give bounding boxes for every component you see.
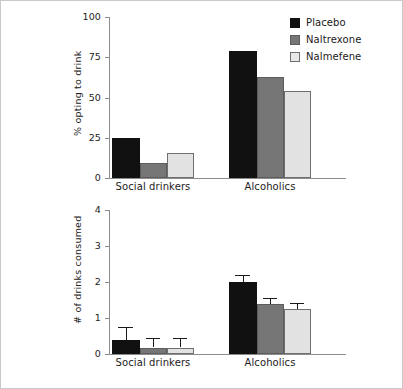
legend-label-placebo: Placebo xyxy=(306,17,346,28)
legend: Placebo Naltrexone Nalmefene xyxy=(290,14,361,65)
y-tick-top-0 xyxy=(105,178,109,179)
errorbar-cap-bottom-alcoholics-nalmefene xyxy=(290,303,304,304)
bar-top-alcoholics-naltrexone xyxy=(257,77,284,178)
legend-item-placebo: Placebo xyxy=(290,14,361,31)
y-tick-bottom-1 xyxy=(105,318,109,319)
legend-swatch-placebo-icon xyxy=(290,18,300,28)
bar-bottom-social-placebo xyxy=(112,340,140,354)
bar-bottom-alcoholics-nalmefene xyxy=(284,309,311,354)
x-axis-line-bottom xyxy=(109,354,346,355)
figure-frame: % opting to drink 100 75 50 25 0 Social … xyxy=(0,0,403,389)
y-tick-label-top-0: 0 xyxy=(75,173,101,183)
errorbar-cap-bottom-alcoholics-placebo xyxy=(235,275,250,276)
y-axis-line-top xyxy=(109,17,110,179)
y-tick-bottom-2 xyxy=(105,282,109,283)
bar-top-alcoholics-placebo xyxy=(229,51,257,178)
bar-top-social-placebo xyxy=(112,138,140,178)
y-axis-label-bottom: # of drinks consumed xyxy=(72,216,83,324)
y-tick-label-top-50: 50 xyxy=(75,93,101,103)
y-tick-label-bottom-3: 3 xyxy=(75,241,101,251)
y-tick-bottom-4 xyxy=(105,210,109,211)
y-tick-top-100 xyxy=(105,17,109,18)
y-tick-top-75 xyxy=(105,57,109,58)
legend-item-nalmefene: Nalmefene xyxy=(290,48,361,65)
legend-label-naltrexone: Naltrexone xyxy=(306,34,361,45)
x-axis-line-top xyxy=(109,178,346,179)
errorbar-stem-bottom-alcoholics-nalmefene xyxy=(297,303,298,310)
x-cat-label-top-social: Social drinkers xyxy=(103,181,203,192)
bar-top-alcoholics-nalmefene xyxy=(284,91,311,178)
y-tick-top-25 xyxy=(105,138,109,139)
errorbar-stem-bottom-social-naltrexone xyxy=(153,338,154,347)
y-tick-label-bottom-0: 0 xyxy=(75,349,101,359)
y-axis-line-bottom xyxy=(109,210,110,355)
legend-item-naltrexone: Naltrexone xyxy=(290,31,361,48)
errorbar-stem-bottom-social-placebo xyxy=(126,327,127,340)
bar-bottom-social-naltrexone xyxy=(140,348,167,355)
y-tick-label-top-100: 100 xyxy=(75,12,101,22)
bar-bottom-alcoholics-naltrexone xyxy=(257,304,284,354)
x-cat-label-bottom-alcoholics: Alcoholics xyxy=(220,357,320,368)
y-tick-label-bottom-4: 4 xyxy=(75,205,101,215)
y-tick-label-top-25: 25 xyxy=(75,133,101,143)
y-tick-bottom-0 xyxy=(105,354,109,355)
chart-panel-drinks-consumed: # of drinks consumed 4 3 2 1 0 xyxy=(1,196,403,389)
errorbar-stem-bottom-alcoholics-placebo xyxy=(243,275,244,282)
y-tick-label-top-75: 75 xyxy=(75,52,101,62)
errorbar-cap-bottom-social-nalmefene xyxy=(173,338,187,339)
errorbar-cap-bottom-social-placebo xyxy=(118,327,133,328)
y-tick-bottom-3 xyxy=(105,246,109,247)
legend-label-nalmefene: Nalmefene xyxy=(306,51,361,62)
x-cat-label-bottom-social: Social drinkers xyxy=(103,357,203,368)
bar-bottom-social-nalmefene xyxy=(167,348,194,355)
errorbar-cap-bottom-alcoholics-naltrexone xyxy=(263,298,277,299)
y-tick-top-50 xyxy=(105,98,109,99)
bar-top-social-nalmefene xyxy=(167,153,194,178)
legend-swatch-nalmefene-icon xyxy=(290,52,300,62)
bar-top-social-naltrexone xyxy=(140,163,167,178)
legend-swatch-naltrexone-icon xyxy=(290,35,300,45)
errorbar-cap-bottom-social-naltrexone xyxy=(146,338,160,339)
bar-bottom-alcoholics-placebo xyxy=(229,282,257,354)
x-cat-label-top-alcoholics: Alcoholics xyxy=(220,181,320,192)
errorbar-stem-bottom-social-nalmefene xyxy=(180,338,181,347)
y-tick-label-bottom-1: 1 xyxy=(75,313,101,323)
y-tick-label-bottom-2: 2 xyxy=(75,277,101,287)
